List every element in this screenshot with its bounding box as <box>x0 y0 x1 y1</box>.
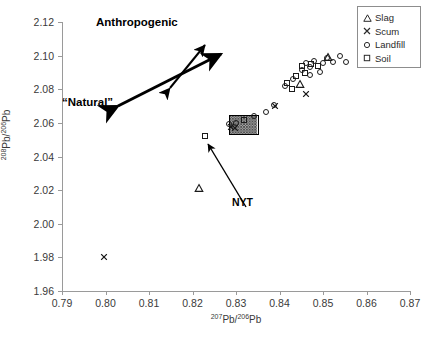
legend-item-scum[interactable]: Scum <box>363 25 420 39</box>
x-tick <box>280 291 281 295</box>
data-point-soil <box>302 70 308 76</box>
y-tick <box>58 89 62 90</box>
y-tick <box>58 56 62 57</box>
y-tick-label: 1.96 <box>34 285 54 297</box>
anthropogenic-short-arrow <box>170 45 205 88</box>
data-point-landfill <box>343 59 349 65</box>
data-point-landfill <box>317 69 323 75</box>
data-point-landfill <box>251 113 257 119</box>
x-tick <box>62 291 63 295</box>
y-tick-label: 2.00 <box>34 218 54 230</box>
x-axis-title: 207Pb/206Pb <box>211 313 262 325</box>
data-point-landfill <box>263 109 269 115</box>
y-tick-label: 2.06 <box>34 117 54 129</box>
x-tick-label: 0.80 <box>95 297 115 309</box>
x-tick-label: 0.79 <box>52 297 72 309</box>
legend: SlagScumLandfillSoil <box>357 6 421 68</box>
x-tick <box>323 291 324 295</box>
x-tick-label: 0.81 <box>139 297 159 309</box>
legend-item-slag[interactable]: Slag <box>363 11 420 25</box>
x-axis-title-end: Pb <box>249 314 261 325</box>
y-tick-label: 2.08 <box>34 83 54 95</box>
x-tick-label: 0.86 <box>356 297 376 309</box>
chart-container: 1.961.982.002.022.042.062.082.102.12 0.7… <box>0 0 426 338</box>
data-point-soil <box>289 86 295 92</box>
x-tick-label: 0.82 <box>182 297 202 309</box>
legend-item-landfill[interactable]: Landfill <box>363 38 420 52</box>
y-tick <box>58 123 62 124</box>
data-point-landfill <box>226 121 232 127</box>
y-tick-label: 1.98 <box>34 251 54 263</box>
data-point-landfill <box>337 53 343 59</box>
data-point-scum <box>303 90 310 97</box>
data-point-soil <box>202 133 208 139</box>
x-tick-label: 0.84 <box>269 297 289 309</box>
legend-label: Scum <box>375 26 399 37</box>
y-axis-title: 208Pb/206Pb <box>0 110 12 161</box>
data-point-slag <box>296 80 305 88</box>
square-icon <box>363 54 375 62</box>
data-point-soil <box>284 80 290 86</box>
x-axis-title-sup2: 206 <box>237 314 249 325</box>
y-tick <box>58 22 62 23</box>
y-tick <box>58 157 62 158</box>
x-axis-title-mid: Pb/ <box>222 314 237 325</box>
data-point-soil <box>308 61 314 67</box>
cross-icon <box>363 27 375 35</box>
x-tick <box>236 291 237 295</box>
y-tick <box>58 257 62 258</box>
legend-item-soil[interactable]: Soil <box>363 52 420 66</box>
y-tick-label: 2.12 <box>34 16 54 28</box>
y-axis-line <box>62 22 63 291</box>
data-point-landfill <box>233 120 239 126</box>
y-tick-label: 2.02 <box>34 184 54 196</box>
y-tick <box>58 224 62 225</box>
data-point-soil <box>315 63 321 69</box>
y-axis-title-mid: Pb/ <box>1 134 12 149</box>
y-tick-label: 2.04 <box>34 151 54 163</box>
circle-icon <box>363 41 375 49</box>
x-tick <box>410 291 411 295</box>
x-tick <box>193 291 194 295</box>
data-point-scum <box>101 254 108 261</box>
y-axis-title-sup2: 206 <box>1 122 12 134</box>
annotation-nyt: NYT <box>232 196 253 208</box>
x-tick <box>367 291 368 295</box>
y-tick-label: 2.10 <box>34 50 54 62</box>
x-tick <box>106 291 107 295</box>
data-point-landfill <box>307 72 313 78</box>
y-axis-title-end: Pb <box>1 110 12 122</box>
legend-label: Soil <box>375 53 391 64</box>
y-tick <box>58 190 62 191</box>
triangle-icon <box>363 14 375 22</box>
y-axis-title-sup1: 208 <box>1 149 12 161</box>
legend-label: Landfill <box>375 39 405 50</box>
data-point-landfill <box>271 102 277 108</box>
annotation-anthropogenic: Anthropogenic <box>96 16 178 28</box>
data-point-slag <box>195 184 204 192</box>
x-tick-label: 0.83 <box>226 297 246 309</box>
x-axis-title-sup1: 207 <box>211 314 223 325</box>
anthropogenic-long-arrow <box>118 54 221 106</box>
legend-label: Slag <box>375 12 394 23</box>
data-point-landfill <box>320 60 326 66</box>
x-tick <box>149 291 150 295</box>
data-point-soil <box>299 63 305 69</box>
data-point-soil <box>293 73 299 79</box>
x-tick-label: 0.85 <box>313 297 333 309</box>
annotation-natural: “Natural” <box>62 96 113 108</box>
x-tick-label: 0.87 <box>400 297 420 309</box>
data-point-landfill <box>330 59 336 65</box>
data-point-soil <box>241 117 247 123</box>
